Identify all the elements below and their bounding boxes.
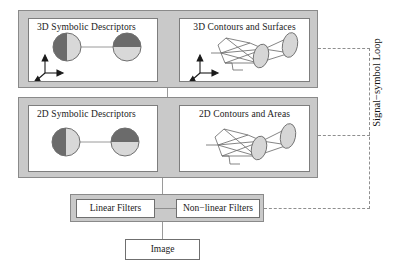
connector-linear-to-nonlinear [155,208,176,209]
diagram-canvas: 3D Symbolic Descriptors [0,0,406,271]
signal-symbol-loop-label: Signal−symbol Loop [371,28,382,138]
image-box[interactable]: Image [125,239,200,260]
connector-2d-to-filters [162,178,163,195]
panel-2d-symbolic-descriptors: 2D Symbolic Descriptors [28,105,158,172]
axes-3d-icon-symbolic [34,55,63,82]
axes-3d-icon-contours [189,55,218,82]
band-2d-level: 2D Symbolic Descriptors 2D Contours and … [18,97,318,178]
loop-dash-top [318,48,370,49]
panel-2d-contours-areas: 2D Contours and Areas [179,105,310,172]
band-3d-level: 3D Symbolic Descriptors [18,10,318,88]
connector-filters-to-image [162,222,163,239]
linear-filters-box[interactable]: Linear Filters [76,199,155,218]
filters-band: Linear Filters Non−linear Filters [70,194,264,222]
nonlinear-filters-box[interactable]: Non−linear Filters [176,199,260,218]
contours-surfaces-graphic-3d [180,19,310,82]
loop-dash-middle [318,135,370,136]
panel-3d-symbolic-descriptors: 3D Symbolic Descriptors [28,18,158,82]
loop-dash-bottom [264,208,370,209]
connector-3d-to-2d [167,88,168,97]
panel-3d-contours-surfaces: 3D Contours and Surfaces [179,18,310,82]
symbolic-descriptors-graphic-3d [29,19,158,82]
symbolic-descriptors-graphic-2d [29,106,158,172]
contours-areas-graphic-2d [180,106,310,172]
